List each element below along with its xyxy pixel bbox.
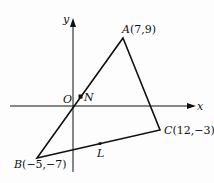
point-b-label: B(−5,−7) (14, 159, 67, 170)
point-l-label: L (97, 148, 104, 159)
point-b-name: B (14, 158, 22, 171)
diagram-canvas (0, 0, 214, 183)
y-axis-label: y (63, 14, 69, 25)
triangle-diagram: y x O A(7,9) B(−5,−7) C(12,−3) N L (0, 0, 214, 183)
point-c-coords: (12,−3) (172, 124, 214, 137)
point-a-name: A (122, 23, 130, 36)
point-l-marker (98, 142, 101, 145)
triangle-abc (37, 38, 160, 158)
x-axis-label: x (197, 101, 203, 112)
origin-label: O (63, 94, 72, 105)
point-b-coords: (−5,−7) (22, 158, 67, 171)
point-c-label: C(12,−3) (164, 125, 214, 136)
point-n-marker (79, 95, 83, 99)
point-n-label: N (84, 92, 94, 103)
point-a-coords: (7,9) (130, 23, 156, 36)
y-axis-arrow-icon (70, 18, 76, 27)
point-a-label: A(7,9) (122, 24, 156, 35)
x-axis-arrow-icon (187, 103, 196, 109)
